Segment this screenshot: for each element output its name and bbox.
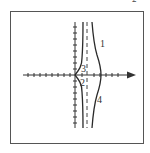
curve-label-3: 3 [81,63,86,74]
x-axis-arrow-icon [127,72,136,79]
curve-label-1: 1 [100,38,105,49]
graph-diagram: 1 3 2 4 [0,0,150,153]
curve-label-2: 2 [80,77,85,88]
curve-label-4: 4 [97,94,102,105]
